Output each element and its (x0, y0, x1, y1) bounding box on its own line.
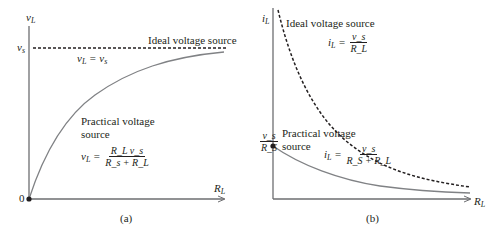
panel-b-intercept-label: v_sR_S (259, 130, 279, 154)
panel-a-practical-label: Practical voltagesource (81, 116, 155, 140)
panel-a-origin-dot (26, 196, 31, 201)
panel-b-caption: (b) (366, 213, 379, 224)
panel-b-y-axis-label: iL (262, 13, 270, 26)
panel-b-x-axis-label: RL (474, 196, 485, 209)
panel-a-vs-tick-label: vs (17, 42, 25, 55)
panel-a-x-axis-label: RL (214, 183, 225, 196)
diagram-canvas (0, 0, 496, 232)
panel-a-practical-equation: vL = R_L v_sR_s + R_L (81, 145, 151, 169)
panel-a-ideal-label: Ideal voltage source (148, 35, 237, 46)
panel-b-ideal-equation: iL = v_sR_L (328, 31, 369, 55)
panel-a-origin-label: 0 (19, 193, 25, 204)
panel-a-y-axis-label: vL (26, 12, 35, 25)
panel-a-ideal-equation: vL = vs (77, 53, 107, 66)
panel-b-practical-equation: iL = v_sR_S + R_L (324, 143, 393, 167)
panel-a-caption: (a) (120, 213, 132, 224)
panel-b-ideal-label: Ideal voltage source (286, 18, 375, 29)
